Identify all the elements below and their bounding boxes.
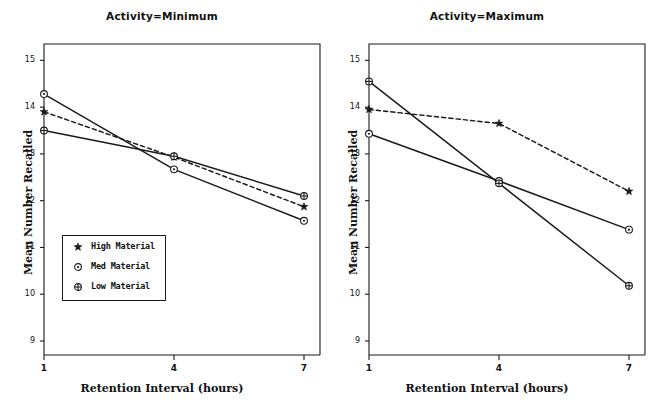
circle-cross-marker [366, 78, 373, 85]
circle-center-dot [77, 266, 79, 268]
x-tick-label: 7 [294, 363, 314, 373]
y-tick-label: 12 [11, 196, 35, 205]
y-tick-label: 15 [11, 55, 35, 64]
series-line [44, 131, 304, 196]
circle-center-dot [43, 93, 45, 95]
circle-center-dot [628, 229, 630, 231]
circle-center-dot [368, 133, 370, 135]
y-tick-label: 14 [11, 102, 35, 111]
y-tick-label: 12 [336, 196, 360, 205]
legend-item: Low Material [63, 276, 165, 296]
y-tick-label: 9 [336, 336, 360, 345]
circle-dot-marker [626, 226, 633, 233]
legend-label: High Material [91, 241, 155, 251]
circle-cross-marker [75, 284, 82, 291]
plot-area [325, 0, 649, 412]
legend-label: Med Material [91, 261, 150, 271]
panel-activity-minimum: Activity=Minimum Mean Number Recalled Re… [0, 0, 324, 412]
plot-frame [369, 44, 645, 355]
circle-dot-marker [41, 91, 48, 98]
y-tick-label: 9 [11, 336, 35, 345]
star-glyph [300, 203, 308, 210]
y-tick-label: 13 [11, 149, 35, 158]
series-low-material [41, 127, 308, 199]
plot-frame [44, 44, 320, 355]
circle-cross-marker [171, 153, 178, 160]
x-tick-label: 7 [619, 363, 639, 373]
y-tick-label: 11 [11, 242, 35, 251]
star-glyph [625, 187, 633, 194]
legend: High MaterialMed MaterialLow Material [62, 235, 166, 301]
figure-canvas: Activity=Minimum Mean Number Recalled Re… [0, 0, 649, 412]
legend-label: Low Material [91, 281, 150, 291]
star-marker [74, 243, 82, 250]
y-tick-label: 10 [11, 289, 35, 298]
circle-cross-marker [496, 180, 503, 187]
star-glyph [74, 243, 82, 250]
y-tick-label: 13 [336, 149, 360, 158]
circle-cross-marker [41, 127, 48, 134]
circle-center-dot [303, 220, 305, 222]
y-tick-label: 14 [336, 102, 360, 111]
circle-dot-marker [71, 259, 85, 273]
series-low-material [366, 78, 633, 289]
star-marker [625, 187, 633, 194]
plot-area [0, 0, 324, 412]
circle-dot-marker [301, 217, 308, 224]
circle-cross-marker [626, 282, 633, 289]
star-marker [300, 203, 308, 210]
y-tick-label: 11 [336, 242, 360, 251]
legend-item: High Material [63, 236, 165, 256]
x-tick-label: 1 [34, 363, 54, 373]
panel-activity-maximum: Activity=Maximum Mean Number Recalled Re… [325, 0, 649, 412]
x-tick-label: 1 [359, 363, 379, 373]
y-tick-label: 15 [336, 55, 360, 64]
circle-cross-marker [301, 193, 308, 200]
circle-cross-marker [71, 279, 85, 293]
circle-center-dot [173, 168, 175, 170]
star-marker [71, 239, 85, 253]
circle-dot-marker [366, 130, 373, 137]
x-tick-label: 4 [164, 363, 184, 373]
x-tick-label: 4 [489, 363, 509, 373]
y-tick-label: 10 [336, 289, 360, 298]
circle-dot-marker [75, 264, 82, 271]
circle-dot-marker [171, 166, 178, 173]
legend-item: Med Material [63, 256, 165, 276]
